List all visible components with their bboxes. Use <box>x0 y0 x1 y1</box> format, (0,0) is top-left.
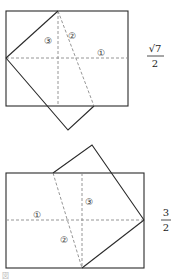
bottom-folded-edge-a <box>53 145 144 220</box>
top-folded-edge-a <box>6 11 58 58</box>
top-folded-edge-b <box>6 58 94 130</box>
bottom-label-2: ② <box>60 235 68 245</box>
figure-caption: 図 <box>2 270 9 280</box>
bottom-value-denominator: 2 <box>163 222 169 233</box>
bottom-figure: ③ ① ② 3 2 <box>6 145 171 268</box>
bottom-value-numerator: 3 <box>163 207 169 218</box>
bottom-folded-edge-b <box>82 220 144 268</box>
bottom-paper-rectangle <box>6 173 144 268</box>
top-paper-rectangle <box>6 11 128 106</box>
top-value-denominator: 2 <box>152 58 158 69</box>
bottom-crease-2 <box>53 173 82 268</box>
bottom-label-3: ③ <box>85 197 93 207</box>
bottom-label-1: ① <box>33 210 41 220</box>
top-figure: ③ ② ① √7 2 <box>6 11 164 130</box>
top-crease-2 <box>58 11 94 106</box>
top-value-numerator: √7 <box>149 43 162 54</box>
top-label-1: ① <box>97 48 105 58</box>
top-label-2: ② <box>68 31 76 41</box>
top-label-3: ③ <box>44 36 52 46</box>
